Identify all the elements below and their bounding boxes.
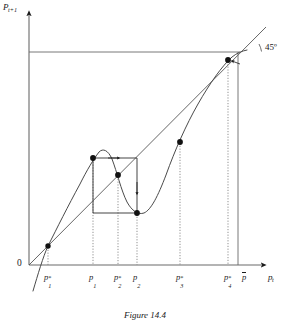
- forty-five-degree-line: [29, 27, 266, 265]
- tick-subscript-p-star-1: 1: [48, 282, 51, 289]
- tick-subscript-p-2: 2: [137, 282, 140, 289]
- figure-caption: Figure 14.4: [0, 310, 290, 320]
- point-markers: [45, 57, 231, 249]
- tick-base-p-1: p: [89, 272, 93, 282]
- angle-45-label: 45º: [265, 42, 277, 52]
- x-axis-label-subscript: t: [272, 276, 274, 283]
- origin-label: 0: [17, 258, 22, 268]
- cobweb-direction-arrows: [108, 158, 137, 194]
- y-axis-label: Pt+1: [3, 2, 18, 12]
- tick-subscript-p-star-3: 3: [180, 282, 183, 289]
- x-tick-label-p-1: p1: [89, 272, 93, 282]
- x-tick-label-p-star-3: p*3: [176, 272, 180, 282]
- x-tick-label-p-star-4: p*4: [224, 272, 228, 282]
- dotted-droplines: [48, 61, 228, 265]
- tick-subscript-p-1: 1: [93, 282, 96, 289]
- tick-superscript-p-star-3: *: [180, 274, 183, 281]
- tick-base-p-bar: p: [242, 272, 246, 282]
- point-p-star-2: [115, 172, 121, 178]
- point-p-star-1: [45, 243, 50, 248]
- pointer-arrow-p-star-4: [232, 61, 240, 64]
- tick-base-p-2: p: [133, 272, 137, 282]
- point-p-star-3: [177, 139, 183, 145]
- angle-arc: [259, 44, 262, 52]
- point-cobweb-lower-right: [134, 210, 140, 216]
- x-tick-label-p-star-2: p*2: [114, 272, 118, 282]
- x-tick-label-p-2: p2: [133, 272, 137, 282]
- x-axis-label: pt: [268, 272, 274, 282]
- map-curve: [33, 50, 247, 291]
- figure-container: Pt+1 pt 0 45º p*1p1p*2p2p*3p*4p Figure 1…: [0, 0, 290, 325]
- y-axis-label-subscript: t+1: [8, 6, 17, 13]
- x-tick-label-p-bar: p: [242, 272, 246, 282]
- point-cobweb-upper-left: [90, 155, 96, 161]
- tick-subscript-p-star-2: 2: [118, 282, 121, 289]
- tick-superscript-p-star-1: *: [48, 274, 51, 281]
- tick-superscript-p-star-2: *: [118, 274, 121, 281]
- point-p-star-4: [225, 57, 231, 63]
- tick-subscript-p-star-4: 4: [228, 282, 231, 289]
- tick-superscript-p-star-4: *: [228, 274, 231, 281]
- x-tick-label-p-star-1: p*1: [44, 272, 48, 282]
- axis-group: [29, 13, 264, 265]
